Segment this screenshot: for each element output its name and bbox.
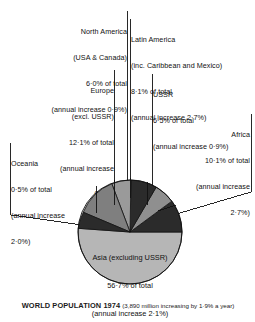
chart-caption: WORLD POPULATION 1974 (3,890 million inc… [14,292,234,319]
pie-label-asia-line2: 56·7% of total [65,281,195,290]
pie-label-asia-line1: Asia (excluding USSR) [65,253,195,262]
leader-africa [173,114,251,216]
caption-detail: (3,890 million increasing by 1·9% a year… [122,302,234,309]
caption-title: WORLD POPULATION 1974 [22,301,120,310]
